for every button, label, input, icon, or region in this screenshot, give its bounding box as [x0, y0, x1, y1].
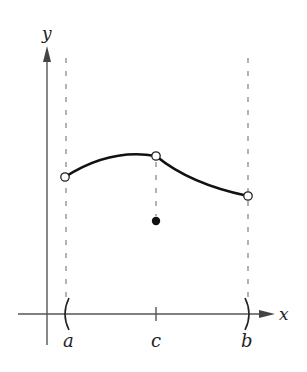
y-axis-arrow-icon [43, 46, 51, 62]
x-axis-arrow-icon [259, 310, 275, 318]
diagram-canvas: y x a c b [0, 0, 307, 372]
tick-label-b: b [241, 330, 253, 351]
filled-point [152, 217, 160, 225]
y-axis-label: y [41, 23, 52, 43]
tick-label-a: a [63, 330, 74, 351]
function-diagram: y x a c b [0, 0, 307, 372]
left-open-point [61, 173, 69, 181]
right-open-point [244, 192, 252, 200]
middle-open-point [152, 152, 160, 160]
x-axis-label: x [279, 304, 289, 324]
tick-label-c: c [151, 330, 161, 351]
